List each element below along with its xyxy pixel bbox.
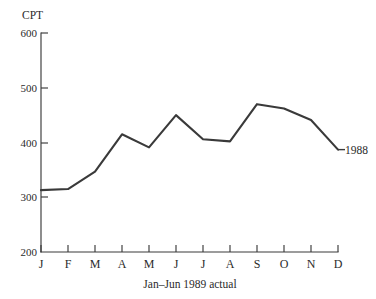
data-series-1988	[41, 104, 338, 190]
x-tick-label-feb: F	[65, 257, 72, 271]
x-tick-label-jan: J	[39, 257, 44, 271]
y-tick-label-200: 200	[21, 246, 38, 258]
y-tick-label-300: 300	[21, 191, 38, 203]
x-tick-label-jun: J	[174, 257, 179, 271]
x-tick-label-sep: S	[254, 257, 261, 271]
y-tick-label-400: 400	[21, 137, 38, 149]
chart-caption: Jan–Jun 1989 actual	[143, 278, 236, 290]
x-tick-label-oct: O	[280, 257, 289, 271]
y-axis-label: CPT	[22, 9, 43, 21]
x-tick-label-dec: D	[334, 257, 343, 271]
x-tick-label-nov: N	[307, 257, 316, 271]
x-tick-label-jul: J	[201, 257, 206, 271]
y-tick-label-500: 500	[21, 82, 38, 94]
line-chart-canvas: CPT 600 500 400 300 200 J F M A M J	[0, 0, 376, 299]
series-annotation-1988: 1988	[345, 144, 368, 156]
x-tick-label-apr: A	[118, 257, 127, 271]
x-tick-label-aug: A	[226, 257, 235, 271]
chart-figure: CPT 600 500 400 300 200 J F M A M J	[0, 0, 376, 299]
x-tick-label-may: M	[144, 257, 155, 271]
x-tick-label-mar: M	[90, 257, 101, 271]
y-tick-label-600: 600	[21, 27, 38, 39]
